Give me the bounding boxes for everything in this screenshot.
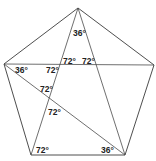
- angle-label: 36°: [15, 65, 28, 75]
- angle-label: 72°: [48, 107, 61, 117]
- angle-label: 72°: [40, 84, 53, 94]
- angle-label: 72°: [63, 56, 76, 66]
- diagonal-e-c: [4, 64, 125, 155]
- angle-label: 72°: [46, 65, 59, 75]
- angle-label: 72°: [82, 56, 95, 66]
- angle-label: 36°: [73, 28, 86, 38]
- angle-label: 36°: [101, 145, 114, 155]
- diagonal-a-d: [31, 8, 78, 155]
- pentagon-diagram: 36° 72° 72° 36° 72° 72° 72° 72° 36°: [0, 0, 156, 161]
- angle-label: 72°: [36, 145, 49, 155]
